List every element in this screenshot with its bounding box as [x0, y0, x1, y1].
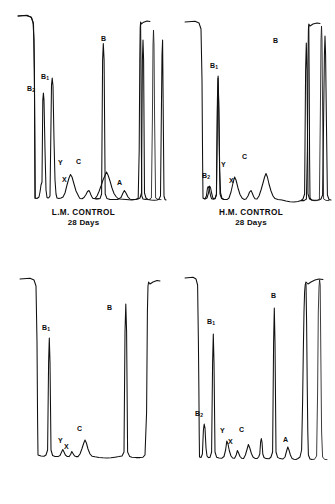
- peak-label-b2: B2: [202, 172, 210, 180]
- peak-label-y: Y: [58, 437, 63, 444]
- panel-caption-lm-control: L.M. CONTROL 28 Days: [0, 208, 167, 227]
- peak-label-b: B: [101, 35, 106, 42]
- peak-label-b1: B1: [42, 324, 50, 332]
- peak-label-b2: B2: [195, 410, 203, 418]
- peak-label-b1: B1: [41, 73, 49, 81]
- panel-lm-hypothyroid: B1 Y X C B L.M. HYPOTHYROID 28 Days: [0, 252, 167, 504]
- peak-label-y: Y: [221, 161, 226, 168]
- peak-label-c: C: [239, 426, 244, 433]
- panel-caption-hm-control: H.M. CONTROL 28 Days: [167, 208, 335, 227]
- caption-line-1: L.M. CONTROL: [0, 208, 167, 217]
- peak-label-y: Y: [220, 427, 225, 434]
- trace-hm-hypothyroid: [167, 252, 335, 504]
- peak-label-b: B: [273, 37, 278, 44]
- caption-line-2: 28 Days: [167, 218, 335, 227]
- figure-panel-grid: B2 B1 Y X C B A L.M. CONTROL 28 Days B2 …: [0, 0, 335, 504]
- peak-label-b1: B1: [207, 318, 215, 326]
- peak-label-b2: B2: [27, 85, 35, 93]
- peak-label-x: X: [64, 443, 69, 450]
- caption-line-2: 28 Days: [0, 218, 167, 227]
- peak-label-x: X: [229, 177, 234, 184]
- caption-line-1: H.M. CONTROL: [167, 208, 335, 217]
- peak-label-a: A: [117, 179, 122, 186]
- panel-lm-control: B2 B1 Y X C B A L.M. CONTROL 28 Days: [0, 0, 167, 252]
- peak-label-b: B: [107, 304, 112, 311]
- peak-label-a: A: [283, 436, 288, 443]
- peak-label-c: C: [77, 425, 82, 432]
- panel-hm-control: B2 B1 Y X C B H.M. CONTROL 28 Days: [167, 0, 335, 252]
- peak-label-x: X: [228, 438, 233, 445]
- peak-label-x: X: [62, 176, 67, 183]
- trace-lm-hypothyroid: [0, 252, 167, 504]
- panel-hm-hypothyroid: B2 B1 Y X C B A H.M. HYPOTHYROID 28 Days: [167, 252, 335, 504]
- peak-label-b1: B1: [210, 62, 218, 70]
- peak-label-c: C: [76, 158, 81, 165]
- peak-label-c: C: [242, 153, 247, 160]
- peak-label-y: Y: [58, 159, 63, 166]
- peak-label-b: B: [271, 292, 276, 299]
